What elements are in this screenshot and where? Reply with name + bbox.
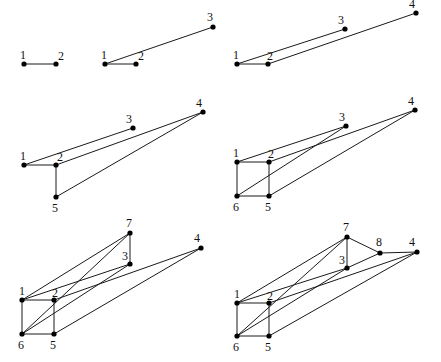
node-label: 1 [234, 287, 240, 301]
node-label: 2 [52, 286, 58, 300]
node-5 [266, 333, 271, 338]
node-label: 7 [126, 216, 132, 230]
node-8 [377, 250, 382, 255]
panel-step-6: 7341265 [18, 216, 204, 352]
panel-step-5: 123465 [233, 94, 418, 214]
panel-step-3: 1234 [233, 0, 419, 67]
node-label: 4 [409, 0, 415, 11]
node-label: 1 [19, 284, 25, 298]
node-label: 4 [194, 231, 200, 245]
edge-1-3 [237, 126, 346, 162]
node-6 [19, 331, 24, 336]
edge-1-3 [22, 264, 130, 300]
node-7 [127, 230, 132, 235]
graph-construction-diagram: 12123123412345123465734126578431265 [0, 0, 441, 362]
node-label: 1 [20, 48, 26, 62]
node-label: 1 [101, 48, 107, 62]
node-label: 3 [339, 253, 345, 267]
node-3 [210, 24, 215, 29]
node-4 [198, 245, 203, 250]
node-1 [19, 297, 24, 302]
panel-step-2: 123 [101, 10, 216, 67]
node-4 [412, 107, 417, 112]
node-label: 3 [339, 110, 345, 124]
node-6 [234, 333, 239, 338]
node-label: 6 [233, 340, 239, 354]
node-3 [344, 265, 349, 270]
node-label: 3 [207, 10, 213, 24]
node-label: 2 [267, 49, 273, 63]
node-4 [413, 10, 418, 15]
node-label: 3 [126, 112, 132, 126]
node-5 [266, 193, 271, 198]
node-1 [21, 61, 26, 66]
node-5 [51, 331, 56, 336]
node-1 [102, 61, 107, 66]
edge-1-7 [22, 233, 130, 300]
panel-step-7: 78431265 [233, 220, 420, 354]
node-3 [130, 125, 135, 130]
edge-6-3 [237, 268, 347, 336]
node-1 [21, 162, 26, 167]
node-label: 5 [52, 201, 58, 215]
edge-3-8 [347, 253, 380, 268]
node-3 [343, 123, 348, 128]
edge-1-3 [24, 128, 133, 165]
edge-6-3 [237, 126, 346, 196]
node-label: 2 [57, 150, 63, 164]
edge-6-7 [237, 237, 347, 336]
node-1 [234, 159, 239, 164]
node-label: 8 [376, 235, 382, 249]
node-5 [53, 194, 58, 199]
node-label: 5 [265, 200, 271, 214]
node-3 [342, 26, 347, 31]
edge-1-3 [105, 27, 213, 64]
node-1 [234, 300, 239, 305]
panel-step-1: 12 [20, 48, 64, 67]
node-label: 3 [122, 249, 128, 263]
node-label: 6 [18, 338, 24, 352]
edge-1-3 [237, 29, 345, 64]
node-4 [200, 109, 205, 114]
node-7 [344, 234, 349, 239]
node-label: 1 [233, 146, 239, 160]
node-label: 7 [343, 220, 349, 234]
node-label: 4 [196, 96, 202, 110]
node-3 [127, 261, 132, 266]
node-label: 2 [268, 147, 274, 161]
node-6 [234, 193, 239, 198]
edge-6-7 [22, 233, 130, 334]
node-label: 5 [265, 340, 271, 354]
node-label: 6 [233, 200, 239, 214]
node-label: 1 [20, 149, 26, 163]
node-label: 2 [267, 289, 273, 303]
node-label: 5 [50, 338, 56, 352]
node-label: 2 [138, 49, 144, 63]
edge-1-3 [237, 268, 347, 303]
node-4 [414, 249, 419, 254]
edge-1-7 [237, 237, 347, 303]
node-label: 1 [233, 48, 239, 62]
node-label: 3 [338, 13, 344, 27]
node-label: 2 [58, 49, 64, 63]
panel-step-4: 12345 [20, 96, 206, 215]
edge-8-4 [380, 252, 417, 253]
node-1 [234, 61, 239, 66]
node-label: 4 [408, 94, 414, 108]
node-label: 4 [409, 235, 415, 249]
